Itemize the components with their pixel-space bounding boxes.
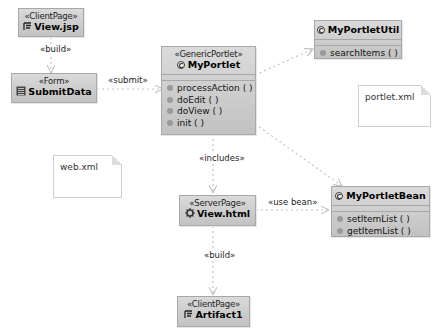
node-my-portlet-util[interactable]: MyPortletUtil searchItems ( ): [314, 20, 402, 59]
node-name: View.jsp: [34, 21, 78, 32]
server-page-icon: [185, 208, 195, 221]
operation-item[interactable]: doView ( ): [167, 106, 251, 118]
operation-icon: [320, 50, 326, 56]
class-icon: [177, 61, 185, 69]
class-icon: [335, 192, 343, 200]
node-my-portlet[interactable]: «GenericPortlet» MyPortlet processAction…: [161, 46, 256, 135]
operation-icon: [167, 97, 173, 103]
edge-label-build-bottom: «build»: [204, 250, 235, 260]
edge-label-submit: «submit»: [108, 75, 148, 85]
edge-bean: [255, 124, 342, 186]
operation-item[interactable]: doEdit ( ): [167, 95, 251, 107]
operation-item[interactable]: processAction ( ): [167, 83, 251, 95]
class-icon: [317, 26, 325, 34]
client-page-icon: [23, 22, 32, 34]
edge-label-use-bean: «use bean»: [268, 197, 317, 207]
node-artifact1[interactable]: «ClientPage» Artifact1: [177, 296, 250, 327]
note-web-xml[interactable]: web.xml: [53, 155, 122, 198]
node-name: MyPortletUtil: [328, 24, 399, 35]
operation-item[interactable]: searchItems ( ): [320, 48, 397, 60]
node-my-portlet-bean[interactable]: MyPortletBean setItemList ( ) getItemLis…: [331, 186, 430, 237]
note-portlet-xml[interactable]: portlet.xml: [358, 85, 431, 127]
note-fold-icon: [421, 85, 431, 95]
edge-label-includes: «includes»: [199, 153, 245, 163]
stereotype-label: «ClientPage»: [178, 299, 249, 309]
client-page-icon: [184, 310, 193, 322]
node-view-jsp[interactable]: «ClientPage» View.jsp: [18, 8, 84, 37]
edge-util: [255, 49, 313, 75]
operation-icon: [337, 228, 343, 234]
node-name: Artifact1: [195, 309, 242, 320]
stereotype-label: «ServerPage»: [180, 198, 255, 208]
node-name: View.html: [197, 208, 250, 219]
operation-icon: [337, 216, 343, 222]
node-name: MyPortlet: [188, 59, 241, 70]
operation-item[interactable]: getItemList ( ): [337, 226, 425, 238]
stereotype-label: «GenericPortlet»: [162, 49, 255, 59]
operation-item[interactable]: setItemList ( ): [337, 214, 425, 226]
note-text: portlet.xml: [365, 92, 414, 102]
edge-label-build-top: «build»: [40, 44, 71, 54]
node-name: MyPortletBean: [346, 190, 425, 201]
node-view-html[interactable]: «ServerPage» View.html: [179, 195, 256, 226]
note-text: web.xml: [60, 162, 98, 172]
operation-icon: [167, 108, 173, 114]
stereotype-label: «ClientPage»: [19, 11, 83, 21]
operations-compartment: processAction ( ) doEdit ( ) doView ( ) …: [162, 80, 255, 131]
operation-icon: [167, 120, 173, 126]
node-name: SubmitData: [28, 86, 91, 97]
operations-compartment: setItemList ( ) getItemList ( ): [332, 211, 429, 239]
operation-item[interactable]: init ( ): [167, 118, 251, 130]
operations-compartment: searchItems ( ): [315, 45, 401, 62]
form-icon: [16, 86, 26, 99]
stereotype-label: «Form»: [12, 76, 96, 86]
note-fold-icon: [112, 155, 122, 165]
operation-icon: [167, 85, 173, 91]
node-submit-data[interactable]: «Form» SubmitData: [11, 73, 97, 103]
